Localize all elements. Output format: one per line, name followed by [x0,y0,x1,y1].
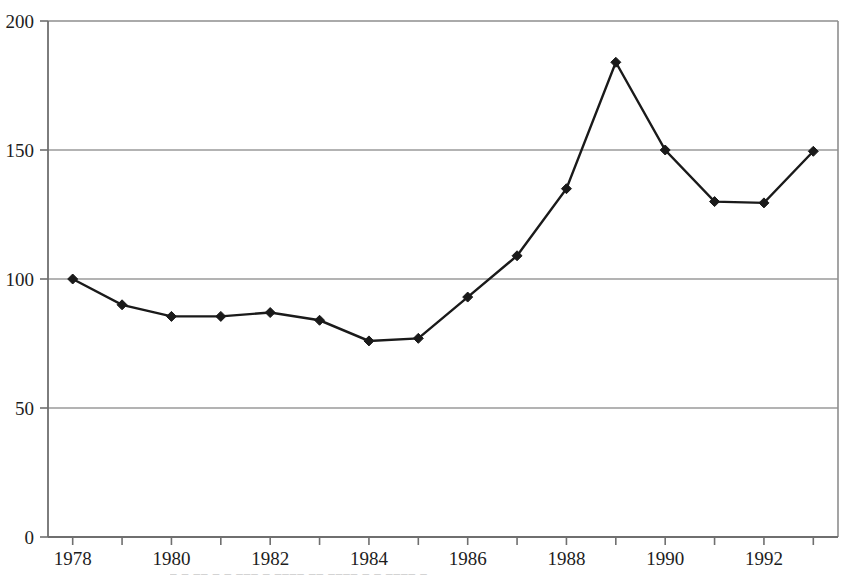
y-axis-ticks [40,21,48,537]
y-axis-tick-labels: 050100150200 [6,11,35,548]
line-chart: 050100150200 197819801982198419861988199… [0,0,849,575]
y-tick-label-50: 50 [15,398,34,419]
y-tick-label-100: 100 [6,269,35,290]
chart-canvas: 050100150200 197819801982198419861988199… [0,0,849,575]
y-tick-label-200: 200 [6,11,35,32]
x-axis-ticks [73,537,814,545]
y-tick-label-150: 150 [6,140,35,161]
cut-off-caption: – – –– – – ––– – –––– –– –––– – – –––– – [170,566,830,575]
x-tick-label-1978: 1978 [54,548,92,569]
y-tick-label-0: 0 [25,527,35,548]
